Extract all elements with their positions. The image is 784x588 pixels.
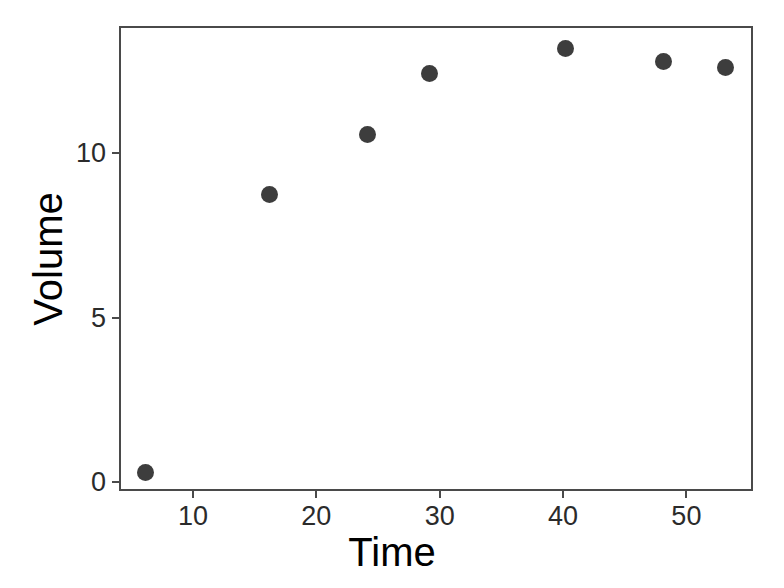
y-tick-mark <box>112 152 119 154</box>
x-tick-mark <box>562 491 564 498</box>
data-points-layer <box>121 28 751 489</box>
data-point <box>137 464 154 481</box>
data-point <box>421 65 438 82</box>
data-point <box>557 40 574 57</box>
y-axis-title-wrapper: Volume <box>0 0 96 517</box>
data-point <box>655 53 672 70</box>
x-axis-title: Time <box>0 528 784 576</box>
y-axis-title: Volume <box>26 192 70 325</box>
scatter-plot-figure: 1020304050 0510 Time Volume <box>0 0 784 588</box>
y-tick-mark <box>112 317 119 319</box>
x-tick-mark <box>685 491 687 498</box>
data-point <box>261 186 278 203</box>
x-tick-mark <box>192 491 194 498</box>
x-tick-mark <box>315 491 317 498</box>
y-tick-mark <box>112 481 119 483</box>
x-tick-mark <box>439 491 441 498</box>
data-point <box>717 59 734 76</box>
data-point <box>359 126 376 143</box>
plot-panel <box>119 26 753 491</box>
